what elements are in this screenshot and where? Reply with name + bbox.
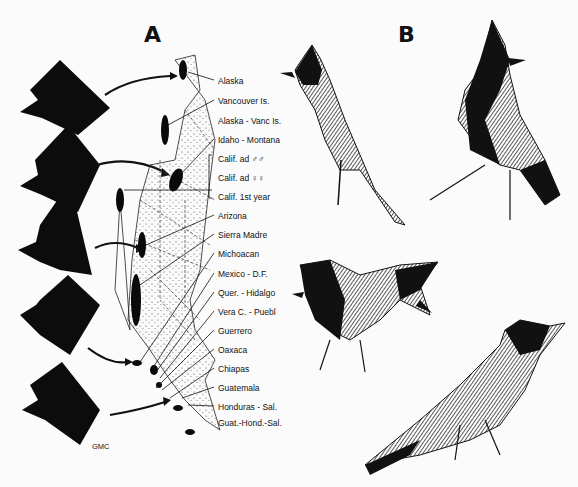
label-chiapas: Chiapas <box>218 364 249 374</box>
label-vancouver: Vancouver Is. <box>218 96 269 106</box>
label-oaxaca: Oaxaca <box>218 345 247 355</box>
label-arizona: Arizona <box>218 211 247 221</box>
label-mexico-df: Mexico - D.F. <box>218 269 268 279</box>
panel-b-label: B <box>398 22 415 47</box>
head-silhouettes <box>18 60 110 445</box>
label-vera-c-puebl: Vera C. - Puebl <box>218 307 276 317</box>
head-1 <box>20 60 110 135</box>
label-calif-1st-year: Calif. 1st year <box>218 192 270 202</box>
bird-top-left <box>280 45 405 225</box>
label-michoacan: Michoacan <box>218 249 259 259</box>
label-calif-ad-males: Calif. ad ♂♂ <box>218 154 264 164</box>
figure: A B Alaska Vancouver Is. Alaska - Vanc I… <box>0 0 578 487</box>
label-alaska-vanc: Alaska - Vanc Is. <box>218 116 281 126</box>
bird-bottom-left <box>292 260 438 372</box>
label-sierra-madre: Sierra Madre <box>218 230 267 240</box>
figure-artwork <box>0 0 578 487</box>
bird-bottom-right <box>365 320 565 475</box>
bird-top-right <box>430 20 560 220</box>
label-idaho-montana: Idaho - Montana <box>218 135 280 145</box>
head-4 <box>20 275 100 355</box>
head-5 <box>22 362 100 445</box>
artist-credit: GMC <box>92 442 110 451</box>
label-guat-hond-sal: Guat.-Hond.-Sal. <box>218 418 282 428</box>
label-alaska: Alaska <box>218 76 244 86</box>
label-honduras-sal: Honduras - Sal. <box>218 402 277 412</box>
panel-a-label: A <box>144 22 161 47</box>
label-quer-hidalgo: Quer. - Hidalgo <box>218 288 275 298</box>
label-calif-ad-females: Calif. ad ♀♀ <box>218 173 264 183</box>
label-guatemala: Guatemala <box>218 383 260 393</box>
label-guerrero: Guerrero <box>218 326 252 336</box>
